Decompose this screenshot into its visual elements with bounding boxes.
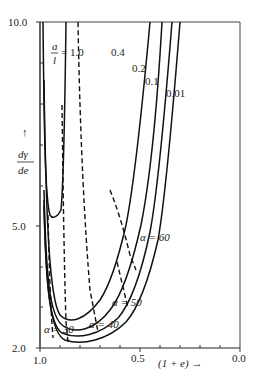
x-tick-0: 0.0	[232, 352, 246, 364]
x-tick-1: 1.0	[33, 354, 47, 366]
label-alpha-40: α = 40	[89, 318, 119, 330]
y-axis-numerator: dγ	[18, 148, 29, 160]
label-0-01: 0.01	[166, 87, 185, 99]
y-tick-10: 10.0	[8, 16, 28, 28]
label-0-1: 0.1	[145, 75, 159, 87]
x-tick-05: 0.5	[131, 352, 145, 364]
y-axis-arrow: ↑	[22, 126, 28, 138]
label-a: a	[52, 40, 58, 52]
dashed-curves	[48, 22, 136, 342]
label-alpha-50: α = 50	[112, 296, 142, 308]
label-0-4: 0.4	[111, 46, 125, 58]
y-tick-2: 2.0	[12, 342, 26, 354]
y-tick-5: 5.0	[12, 220, 26, 232]
label-0-2: 0.2	[132, 62, 146, 74]
label-a-l-1-0: = 1.0	[61, 46, 84, 58]
label-alpha-60: α = 60	[140, 231, 170, 243]
chart: 10.0 5.0 2.0 1.0 0.5 0.0 ↑ dγ de (1 + e)…	[0, 0, 257, 382]
curve-alpha-40	[62, 105, 68, 342]
y-axis-denominator: de	[18, 164, 29, 176]
label-alpha-30: α = 30	[44, 323, 74, 335]
curve-alpha-50	[78, 22, 98, 332]
x-axis-label: (1 + e) →	[158, 357, 202, 370]
label-l: l	[53, 54, 56, 66]
